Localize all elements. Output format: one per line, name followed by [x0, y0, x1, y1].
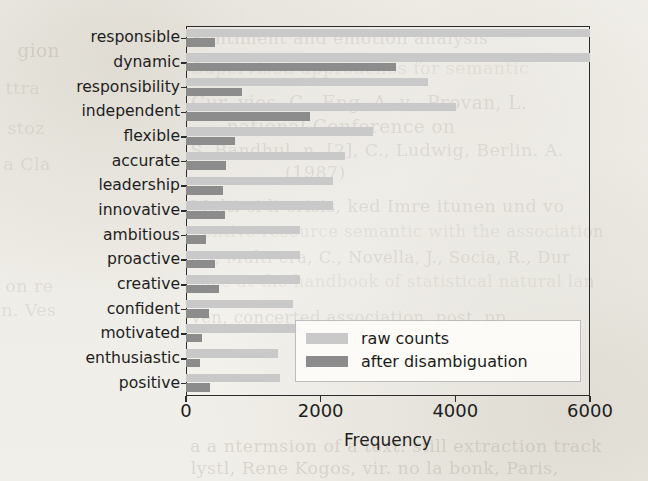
bar-raw-counts	[186, 374, 280, 382]
bar-raw-counts	[186, 251, 300, 259]
bar-after-disambiguation	[186, 235, 206, 243]
bar-after-disambiguation	[186, 309, 209, 317]
y-axis-category-labels: responsibledynamicresponsibilityindepend…	[0, 26, 180, 396]
bar-raw-counts	[186, 324, 300, 332]
y-axis-label: innovative	[0, 203, 180, 219]
y-axis-label: independent	[0, 104, 180, 120]
bar-after-disambiguation	[186, 88, 242, 96]
bar-row	[186, 248, 590, 273]
bar-after-disambiguation	[186, 260, 215, 268]
bar-after-disambiguation	[186, 186, 223, 194]
y-axis-label: responsible	[0, 30, 180, 46]
bar-after-disambiguation	[186, 334, 202, 342]
legend-swatch-after-disambiguation	[306, 356, 348, 367]
chart-legend: raw counts after disambiguation	[295, 320, 581, 382]
bar-row	[186, 297, 590, 322]
bar-raw-counts	[186, 29, 590, 37]
x-tick-label: 0	[180, 402, 191, 420]
legend-swatch-raw-counts	[306, 333, 348, 344]
y-axis-label: proactive	[0, 252, 180, 268]
x-tick-label: 6000	[567, 402, 613, 420]
bar-raw-counts	[186, 103, 456, 111]
y-axis-label: positive	[0, 376, 180, 392]
bar-raw-counts	[186, 300, 293, 308]
bar-row	[186, 100, 590, 125]
bar-after-disambiguation	[186, 383, 210, 391]
y-axis-label: enthusiastic	[0, 351, 180, 367]
x-axis-tick-labels: 0200040006000	[0, 402, 648, 426]
bar-row	[186, 273, 590, 298]
bar-after-disambiguation	[186, 285, 219, 293]
bar-raw-counts	[186, 78, 428, 86]
bar-after-disambiguation	[186, 137, 235, 145]
bar-row	[186, 125, 590, 150]
bar-raw-counts	[186, 349, 278, 357]
bar-raw-counts	[186, 275, 300, 283]
bar-row	[186, 75, 590, 100]
frequency-bar-chart: responsibledynamicresponsibilityindepend…	[0, 0, 648, 481]
bar-after-disambiguation	[186, 38, 215, 46]
legend-item-after-disambiguation: after disambiguation	[306, 350, 572, 373]
bar-row	[186, 26, 590, 51]
bar-after-disambiguation	[186, 359, 200, 367]
bar-raw-counts	[186, 177, 333, 185]
x-tick-label: 4000	[432, 402, 478, 420]
bar-after-disambiguation	[186, 63, 396, 71]
y-axis-label: ambitious	[0, 228, 180, 244]
bar-row	[186, 51, 590, 76]
bar-raw-counts	[186, 53, 590, 61]
bar-row	[186, 174, 590, 199]
y-axis-label: creative	[0, 277, 180, 293]
x-axis-title: Frequency	[186, 430, 590, 450]
y-axis-label: leadership	[0, 178, 180, 194]
scanned-page-background: Sentiment and emotion analysisgionSuperv…	[0, 0, 648, 481]
x-tick-label: 2000	[298, 402, 344, 420]
y-axis-label: dynamic	[0, 55, 180, 71]
bar-raw-counts	[186, 127, 373, 135]
y-axis-label: confident	[0, 302, 180, 318]
bar-row	[186, 223, 590, 248]
y-axis-label: responsibility	[0, 80, 180, 96]
bar-raw-counts	[186, 152, 345, 160]
bar-raw-counts	[186, 201, 333, 209]
bar-after-disambiguation	[186, 211, 225, 219]
bar-row	[186, 149, 590, 174]
legend-item-raw-counts: raw counts	[306, 327, 572, 350]
bar-after-disambiguation	[186, 112, 310, 120]
bar-raw-counts	[186, 226, 300, 234]
bar-row	[186, 199, 590, 224]
legend-label-after-disambiguation: after disambiguation	[361, 354, 528, 370]
bar-after-disambiguation	[186, 161, 226, 169]
y-axis-label: accurate	[0, 154, 180, 170]
legend-label-raw-counts: raw counts	[361, 331, 449, 347]
y-axis-label: flexible	[0, 129, 180, 145]
y-axis-label: motivated	[0, 326, 180, 342]
